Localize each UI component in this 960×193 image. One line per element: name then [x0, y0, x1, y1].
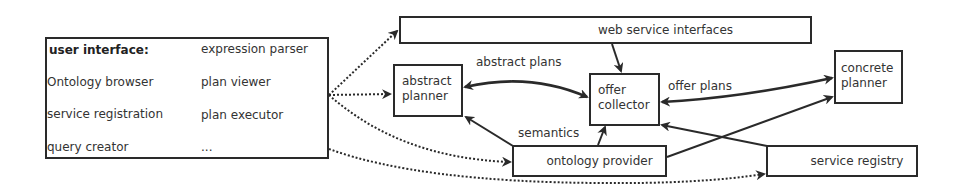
- edge-ontology-to-abstract-planner: [466, 117, 513, 146]
- user-interface-title: user interface:: [49, 43, 149, 57]
- abstract-planner-line1: abstract: [402, 74, 452, 89]
- user-interface-box: user interface: Ontology browser service…: [45, 37, 329, 159]
- edge-abstract-plans: [465, 81, 587, 97]
- web-service-interfaces-box: web service interfaces: [399, 16, 812, 44]
- edge-semantics: [598, 127, 605, 145]
- edge-web-service-to-offer-collector: [612, 44, 621, 71]
- ui-item-ontology-browser: Ontology browser: [47, 75, 153, 89]
- offer-collector-box: offer collector: [589, 73, 660, 126]
- edge-label-abstract-plans: abstract plans: [476, 55, 562, 69]
- offer-collector-line2: collector: [598, 98, 650, 113]
- ui-item-ellipsis: ...: [201, 140, 212, 154]
- dotted-edge-ui-to-abstract-planner: [329, 94, 390, 95]
- web-service-interfaces-label: web service interfaces: [598, 23, 733, 37]
- service-registry-box: service registry: [766, 145, 918, 177]
- ui-item-expression-parser: expression parser: [201, 42, 308, 56]
- concrete-planner-box: concrete planner: [834, 50, 903, 104]
- service-registry-label: service registry: [811, 154, 904, 168]
- edge-service-registry-to-offer-collector: [662, 125, 767, 146]
- abstract-planner-line2: planner: [402, 89, 452, 104]
- abstract-planner-box: abstract planner: [393, 64, 463, 117]
- ui-item-service-registration: service registration: [47, 107, 163, 121]
- ui-item-plan-viewer: plan viewer: [201, 75, 271, 89]
- ui-item-plan-executor: plan executor: [201, 108, 283, 122]
- edge-label-semantics: semantics: [518, 126, 579, 140]
- dotted-edge-ui-to-web-service: [329, 31, 397, 95]
- ontology-provider-box: ontology provider: [512, 145, 667, 177]
- concrete-planner-line2: planner: [841, 76, 893, 91]
- ui-item-query-creator: query creator: [47, 140, 128, 154]
- concrete-planner-line1: concrete: [841, 61, 893, 76]
- offer-collector-line1: offer: [598, 83, 650, 98]
- edge-label-offer-plans: offer plans: [668, 79, 732, 93]
- ontology-provider-label: ontology provider: [546, 154, 652, 168]
